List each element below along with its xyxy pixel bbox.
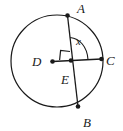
geometry-figure: A B C D E x <box>0 0 123 131</box>
label-point-b: B <box>83 115 91 130</box>
point-c-dot <box>99 57 104 62</box>
point-b-dot <box>76 104 81 109</box>
label-angle-x: x <box>75 35 81 47</box>
label-point-d: D <box>31 54 42 69</box>
point-a-dot <box>65 13 70 18</box>
point-e-dot <box>69 58 74 63</box>
label-point-e: E <box>60 72 69 87</box>
right-angle-marker <box>60 50 70 60</box>
geometry-diagram-svg: A B C D E x <box>0 0 123 131</box>
point-d-dot <box>50 59 55 64</box>
label-point-a: A <box>76 1 85 16</box>
label-point-c: C <box>106 53 115 68</box>
